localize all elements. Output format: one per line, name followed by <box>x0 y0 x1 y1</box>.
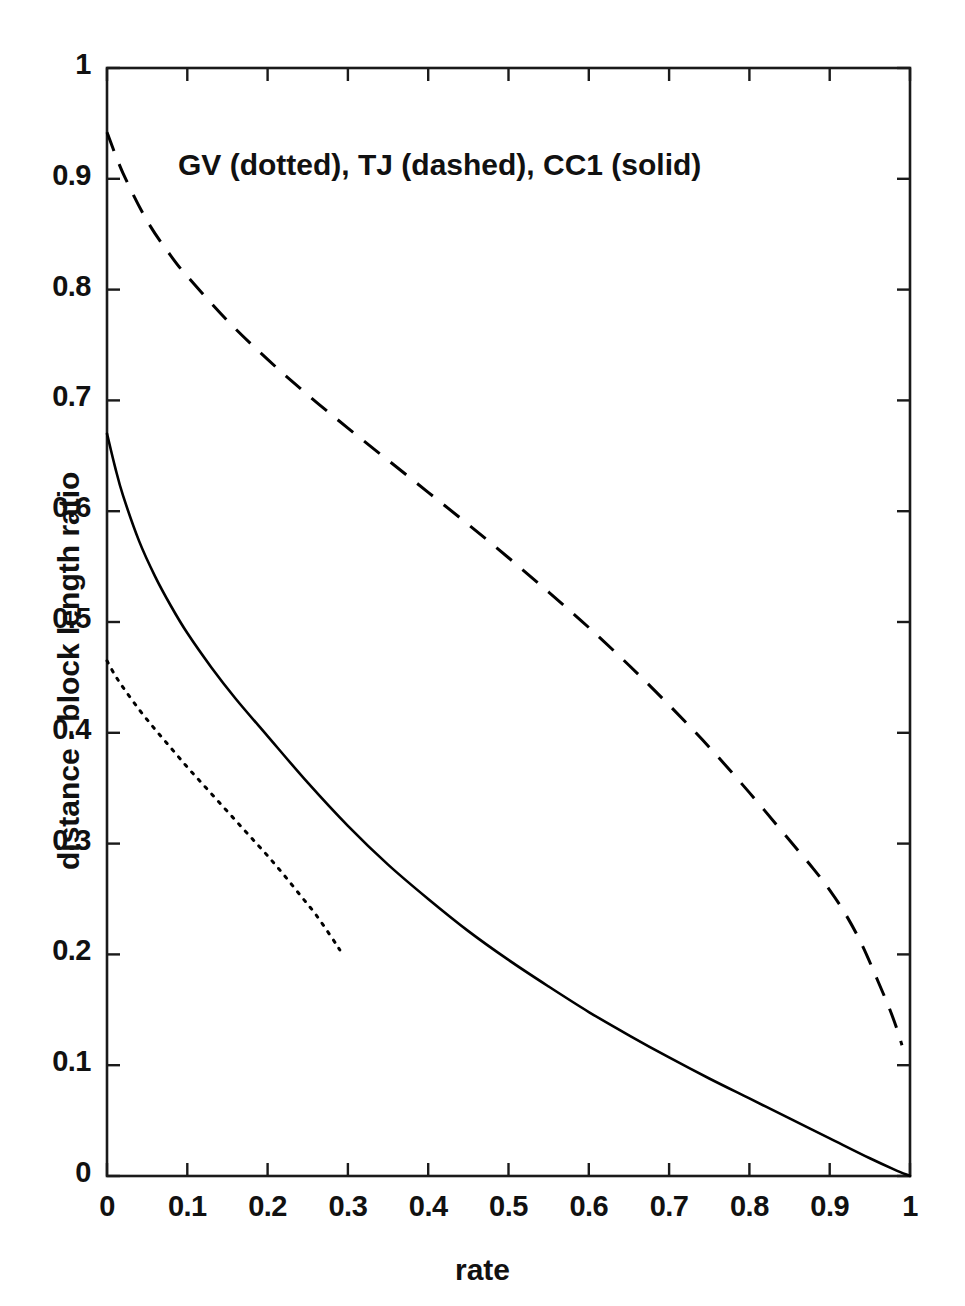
x-axis-title: rate <box>0 1253 965 1287</box>
y-tick-label: 1 <box>0 48 91 81</box>
y-tick-label: 0.3 <box>0 824 91 857</box>
x-tick-label: 0.1 <box>142 1190 232 1223</box>
x-tick-label: 0.7 <box>624 1190 714 1223</box>
x-tick-label: 0.6 <box>544 1190 634 1223</box>
x-tick-label: 0.4 <box>383 1190 473 1223</box>
x-tick-label: 1 <box>865 1190 955 1223</box>
x-tick-label: 0.9 <box>785 1190 875 1223</box>
x-tick-label: 0.2 <box>223 1190 313 1223</box>
series-line-cc1 <box>107 434 910 1176</box>
y-tick-label: 0.4 <box>0 713 91 746</box>
plot-border <box>107 68 910 1176</box>
series-legend-annotation: GV (dotted), TJ (dashed), CC1 (solid) <box>178 148 701 182</box>
axis-ticks <box>107 68 910 1176</box>
x-tick-label: 0.8 <box>704 1190 794 1223</box>
chart-plot <box>0 0 965 1306</box>
y-axis-title: distance - block length ratio <box>52 472 86 870</box>
axes-frame <box>107 68 910 1176</box>
x-tick-label: 0 <box>62 1190 152 1223</box>
y-tick-label: 0.8 <box>0 270 91 303</box>
series-line-tj <box>107 132 902 1045</box>
y-tick-label: 0.2 <box>0 934 91 967</box>
series-line-gv <box>107 661 340 950</box>
y-tick-label: 0.9 <box>0 159 91 192</box>
data-series <box>107 132 910 1176</box>
figure-container: GV (dotted), TJ (dashed), CC1 (solid) di… <box>0 0 965 1306</box>
x-tick-label: 0.5 <box>464 1190 554 1223</box>
y-tick-label: 0.1 <box>0 1045 91 1078</box>
y-tick-label: 0.5 <box>0 602 91 635</box>
y-tick-label: 0.6 <box>0 491 91 524</box>
x-tick-label: 0.3 <box>303 1190 393 1223</box>
y-tick-label: 0 <box>0 1156 91 1189</box>
y-tick-label: 0.7 <box>0 380 91 413</box>
